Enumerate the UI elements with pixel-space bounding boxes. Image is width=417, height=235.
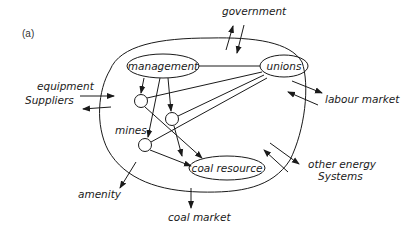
- management-label: management: [128, 60, 199, 72]
- arrow-mine2-coal: [174, 126, 182, 156]
- coal-market-label: coal market: [168, 211, 231, 223]
- mine-node-3: [139, 139, 152, 152]
- arrow-to-other-energy: [270, 143, 299, 164]
- arrow-management-mine1: [141, 78, 144, 93]
- equipment-label: equipment: [37, 80, 95, 92]
- arrow-to-suppliers: [83, 107, 111, 109]
- amenity-label: amenity: [78, 188, 122, 200]
- arrow-mine3-coal: [150, 150, 191, 166]
- unions-mine1-link: [147, 72, 262, 98]
- arrow-from-labour-market: [288, 92, 318, 105]
- arrow-to-labour-market: [292, 81, 322, 93]
- arrow-to-amenity: [120, 162, 136, 188]
- suppliers-label: Suppliers: [25, 94, 74, 106]
- coal-resource-label: coal resource: [192, 162, 263, 174]
- system-diagram: (a) management unions mines coal resourc…: [0, 0, 417, 235]
- unions-label: unions: [267, 60, 302, 72]
- arrow-mine1-coal: [145, 107, 202, 158]
- mine-node-1: [135, 95, 148, 108]
- arrow-management-mine2: [168, 78, 171, 111]
- mines-label: mines: [115, 124, 147, 136]
- panel-label: (a): [22, 28, 34, 39]
- arrow-management-mine3: [148, 78, 160, 137]
- government-label: government: [222, 5, 287, 17]
- systems-label: Systems: [318, 170, 363, 182]
- other-energy-label: other energy: [308, 158, 377, 170]
- labour-market-label: labour market: [325, 93, 400, 105]
- mine-node-2: [166, 113, 179, 126]
